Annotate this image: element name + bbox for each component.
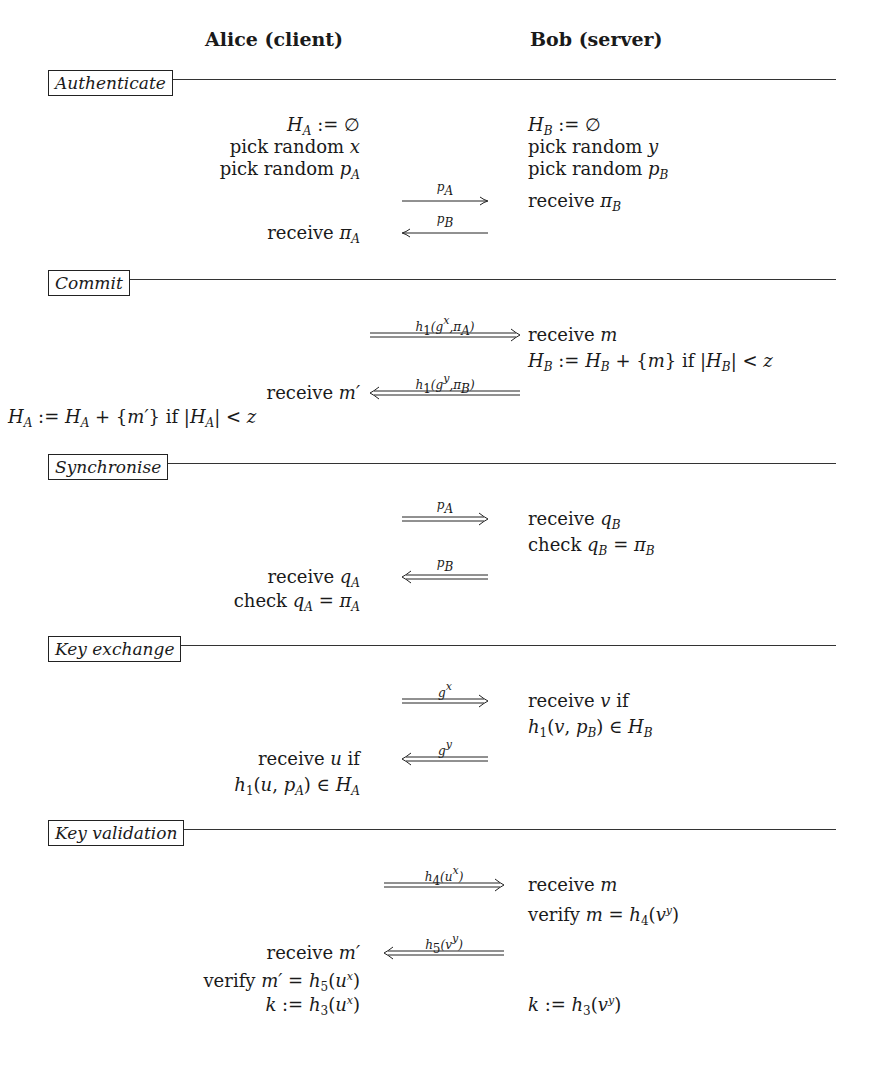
message-arrow-left-double: h5(vy) (384, 934, 504, 964)
double-arrow-left-icon (402, 572, 488, 582)
section-title: Commit (48, 270, 130, 296)
bob-step: receive m (528, 324, 617, 346)
double-arrow-right-icon (402, 696, 488, 706)
double-arrow-right-icon (370, 330, 520, 340)
section-synchronise: Synchronise (48, 454, 836, 480)
message-arrow-left-double: pB (402, 558, 488, 588)
alice-step: pick random x (230, 136, 360, 158)
alice-step: HA := HA + {m′} if |HA| < z (8, 406, 256, 434)
bob-step: pick random y (528, 136, 658, 158)
bob-step: h1(v, pB) ∈ HB (528, 716, 653, 744)
bob-column-header: Bob (server) (530, 28, 663, 50)
bob-step: verify m = h4(vy) (528, 900, 679, 932)
alice-step: check qA = πA (234, 590, 360, 618)
alice-step: k := h3(ux) (265, 990, 360, 1022)
message-arrow-left-double: h1(gy,πB) (370, 374, 520, 404)
bob-step: pick random pB (528, 158, 668, 186)
alice-step: pick random pA (220, 158, 360, 186)
bob-step: receive v if (528, 690, 629, 712)
bob-step: k := h3(vy) (528, 990, 621, 1022)
double-arrow-left-icon (402, 754, 488, 764)
message-arrow-right: pA (402, 182, 488, 212)
alice-step: h1(u, pA) ∈ HA (234, 774, 360, 802)
section-title: Synchronise (48, 454, 168, 480)
bob-step: check qB = πB (528, 534, 655, 562)
arrow-left-icon (402, 228, 488, 238)
section-key-exchange: Key exchange (48, 636, 836, 662)
bob-step: HB := HB + {m} if |HB| < z (528, 350, 773, 378)
section-title: Key validation (48, 820, 184, 846)
alice-step: receive m′ (267, 382, 360, 404)
message-arrow-right-double: gx (402, 682, 488, 712)
message-arrow-right-double: h1(gx,πA) (370, 316, 520, 346)
alice-column-header: Alice (client) (205, 28, 343, 50)
message-arrow-left-double: gy (402, 740, 488, 770)
double-arrow-right-icon (402, 514, 488, 524)
alice-step: receive πA (267, 222, 360, 250)
message-arrow-right-double: pA (402, 500, 488, 530)
arrow-right-icon (402, 196, 488, 206)
section-commit: Commit (48, 270, 836, 296)
bob-step: receive qB (528, 508, 621, 536)
double-arrow-right-icon (384, 880, 504, 890)
section-divider (48, 279, 836, 280)
double-arrow-left-icon (370, 388, 520, 398)
bob-step: receive m (528, 874, 617, 896)
double-arrow-left-icon (384, 948, 504, 958)
alice-step: receive m′ (267, 942, 360, 964)
section-key-validation: Key validation (48, 820, 836, 846)
alice-step: receive u if (258, 748, 360, 770)
section-authenticate: Authenticate (48, 70, 836, 96)
bob-step: receive πB (528, 190, 621, 218)
section-title: Authenticate (48, 70, 173, 96)
message-arrow-left: pB (402, 214, 488, 244)
section-title: Key exchange (48, 636, 181, 662)
message-arrow-right-double: h4(ux) (384, 866, 504, 896)
